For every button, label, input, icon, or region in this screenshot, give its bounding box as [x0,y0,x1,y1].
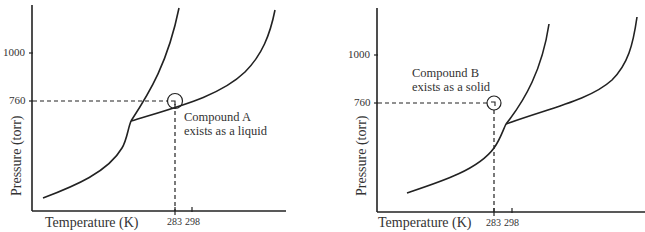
phase-diagram-compound-a: 1000 760 Pressure (torr) Temperature (K)… [0,0,320,232]
vaporization-curve [131,10,275,121]
y-axis-label: Pressure (torr) [355,116,369,196]
y-tick-label-760: 760 [9,95,26,106]
annotation-line-1: Compound B [412,66,490,80]
annotation-line-2: exists as a liquid [184,124,267,138]
y-axis-label: Pressure (torr) [10,116,24,196]
melting-curve [506,24,549,124]
y-tick-label-760: 760 [354,97,371,108]
x-tick-label-283: 283 [167,217,182,227]
vaporization-curve [506,17,637,124]
annotation-compound-b: Compound B exists as a solid [412,66,490,94]
y-tick-label-1000: 1000 [3,47,25,58]
marked-point-corner [491,102,495,106]
x-axis-label: Temperature (K) [45,216,138,230]
phase-diagram-compound-b: 1000 760 Pressure (torr) Temperature (K)… [320,0,645,232]
annotation-compound-a: Compound A exists as a liquid [184,110,267,138]
sublimation-curve [43,121,131,198]
x-tick-label-298: 298 [504,218,519,228]
marked-point-circle [487,96,501,110]
y-tick-label-1000: 1000 [348,49,370,60]
x-axis-label: Temperature (K) [378,216,471,230]
sublimation-curve [407,124,506,193]
x-tick-label-283: 283 [486,218,501,228]
phase-diagram-a-plot [0,0,320,232]
annotation-line-2: exists as a solid [412,80,490,94]
annotation-line-1: Compound A [184,110,267,124]
x-tick-label-298: 298 [185,217,200,227]
melting-curve [131,8,179,121]
